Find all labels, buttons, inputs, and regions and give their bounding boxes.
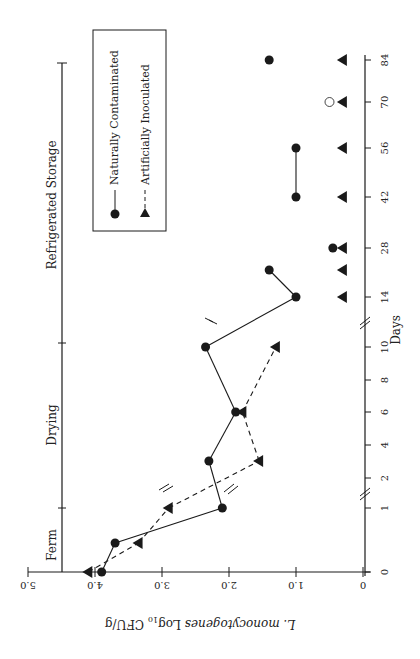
circle-marker-icon (97, 568, 106, 577)
rotated-line-chart: 01.02.03.04.05.001246810142842567084Days… (0, 0, 420, 659)
triangle-marker-icon (337, 142, 347, 154)
triangle-marker-icon (337, 96, 347, 108)
triangle-marker-icon (337, 291, 347, 303)
value-axis-title: L. monocytogenes Log10 CFU/g (104, 615, 296, 631)
circle-marker-icon (218, 504, 227, 513)
circle-marker-icon (292, 144, 301, 153)
series-segment (169, 461, 259, 508)
phase-bar: FermDryingRefrigerated Storage (45, 63, 67, 572)
triangle-marker-icon (337, 264, 347, 276)
days-axis-tick-label: 28 (379, 242, 390, 255)
days-axis-tick-label: 42 (379, 191, 390, 204)
value-axis-tick-label: 2.0 (221, 580, 237, 591)
legend-box (93, 30, 166, 231)
series-segment (269, 270, 296, 297)
days-axis-tick-label: 14 (379, 291, 390, 304)
circle-marker-icon (201, 343, 210, 352)
circle-marker-icon (111, 539, 120, 548)
triangle-marker-icon (133, 537, 143, 549)
days-axis-tick-label: 1 (379, 505, 390, 511)
series-segment (115, 508, 222, 543)
legend-label-artificially-inoculated: Artificially Inoculated (139, 64, 152, 186)
legend-label-naturally-contaminated: Naturally Contaminated (108, 50, 121, 185)
legend-triangle-marker-icon (140, 208, 150, 217)
triangle-marker-icon (82, 566, 92, 578)
days-axis-tick-label: 0 (379, 569, 390, 575)
line-break-mark (209, 320, 217, 324)
legend: Naturally ContaminatedArtificially Inocu… (93, 30, 166, 231)
value-axis-tick-label: 3.0 (154, 580, 170, 591)
series-segment (242, 347, 276, 412)
phase-label-refrigerated-storage: Refrigerated Storage (45, 140, 59, 269)
triangle-marker-icon (163, 502, 173, 514)
series-segment (242, 412, 259, 461)
value-axis-tick-label: 5.0 (20, 580, 36, 591)
days-axis-tick-label: 6 (379, 409, 390, 415)
triangle-marker-icon (337, 242, 347, 254)
circle-marker-icon (292, 193, 301, 202)
circle-marker-icon (204, 457, 213, 466)
circle-marker-icon (265, 56, 274, 65)
days-axis-tick-label: 2 (379, 475, 390, 481)
circle-marker-icon (292, 293, 301, 302)
days-axis-tick-label: 84 (379, 54, 390, 67)
triangle-marker-icon (337, 54, 347, 66)
series-segment (139, 508, 169, 543)
phase-label-ferm: Ferm (45, 528, 59, 561)
series-lines (88, 148, 296, 572)
series-segment (209, 412, 236, 461)
days-axis-tick-label: 56 (379, 142, 390, 155)
days-axis-tick-label: 4 (379, 442, 390, 448)
axes: 01.02.03.04.05.001246810142842567084Days… (20, 54, 403, 631)
triangle-marker-icon (236, 406, 246, 418)
days-axis-tick-label: 70 (379, 96, 390, 109)
open-circle-marker-icon (325, 98, 334, 107)
circle-marker-icon (328, 244, 337, 253)
value-axis-tick-label: 1.0 (288, 580, 304, 591)
phase-label-drying: Drying (45, 404, 59, 446)
series-segment (209, 461, 222, 508)
triangle-marker-icon (270, 341, 280, 353)
value-axis-tick-label: 4.0 (87, 580, 103, 591)
days-axis-tick-label: 8 (379, 377, 390, 383)
series-segment (206, 297, 296, 347)
days-axis-title: Days (389, 315, 403, 345)
series-markers (82, 54, 347, 578)
value-axis-tick-label: 0 (360, 580, 366, 591)
circle-marker-icon (265, 266, 274, 275)
series-segment (206, 347, 236, 412)
triangle-marker-icon (337, 191, 347, 203)
